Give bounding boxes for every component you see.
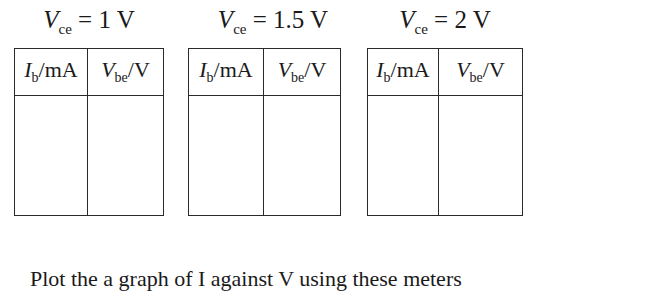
- h-sub: b: [384, 71, 391, 86]
- table-caption-2: Vce = 1.5 V: [208, 6, 338, 38]
- h-unit: /V: [304, 57, 326, 82]
- col-header-vbe: Vbe/V: [264, 49, 341, 96]
- h-sub: b: [32, 71, 39, 86]
- caption-sub: ce: [233, 21, 246, 37]
- data-table-1: Ib/mAVbe/V: [14, 48, 164, 216]
- h-var: I: [199, 57, 206, 82]
- cell-ib[interactable]: [368, 96, 439, 216]
- h-unit: /V: [483, 57, 505, 82]
- table-caption-1: Vce = 1 V: [34, 6, 144, 38]
- h-var: V: [456, 57, 469, 82]
- h-unit: /mA: [391, 57, 430, 82]
- caption-value: = 1.5 V: [246, 6, 328, 33]
- cell-ib[interactable]: [189, 96, 264, 216]
- h-sub: b: [207, 71, 214, 86]
- table-caption-3: Vce = 2 V: [390, 6, 500, 38]
- caption-sub: ce: [415, 21, 428, 37]
- h-unit: /mA: [214, 57, 253, 82]
- col-header-ib: Ib/mA: [189, 49, 264, 96]
- col-header-vbe: Vbe/V: [439, 49, 523, 96]
- data-table-3: Ib/mAVbe/V: [367, 48, 523, 216]
- col-header-vbe: Vbe/V: [88, 49, 164, 96]
- instruction-text: Plot the a graph of I against V using th…: [30, 266, 462, 292]
- cell-vbe[interactable]: [439, 96, 523, 216]
- h-var: I: [376, 57, 383, 82]
- h-var: V: [278, 57, 291, 82]
- caption-value: = 2 V: [428, 6, 491, 33]
- h-sub: be: [115, 71, 128, 86]
- caption-var: V: [218, 6, 233, 33]
- caption-var: V: [399, 6, 414, 33]
- h-unit: /mA: [39, 57, 78, 82]
- caption-value: = 1 V: [72, 6, 135, 33]
- h-var: I: [24, 57, 31, 82]
- cell-vbe[interactable]: [88, 96, 164, 216]
- data-table-2: Ib/mAVbe/V: [188, 48, 341, 216]
- cell-vbe[interactable]: [264, 96, 341, 216]
- col-header-ib: Ib/mA: [368, 49, 439, 96]
- h-var: V: [101, 57, 114, 82]
- h-sub: be: [291, 71, 304, 86]
- caption-var: V: [43, 6, 58, 33]
- col-header-ib: Ib/mA: [15, 49, 88, 96]
- cell-ib[interactable]: [15, 96, 88, 216]
- caption-sub: ce: [59, 21, 72, 37]
- h-sub: be: [470, 71, 483, 86]
- h-unit: /V: [128, 57, 150, 82]
